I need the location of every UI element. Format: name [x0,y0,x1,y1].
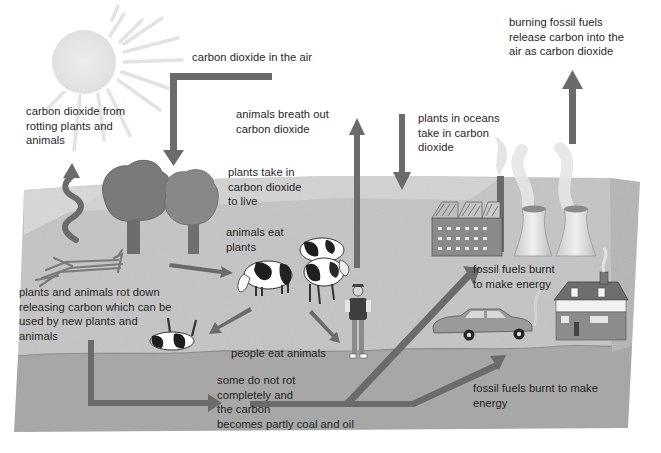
label-animals-eat-plants: animals eat plants [226,225,284,254]
arrow-fossil-release [562,70,583,144]
label-animals-breath-out: animals breath out carbon dioxide [236,107,329,136]
label-fossil-fuels-burnt-lower: fossil fuels burnt to make energy [473,381,598,410]
label-fossil-fuels-burnt-upper: fossil fuels burnt to make energy [473,262,555,291]
label-some-do-not-rot: some do not rot completely and the carbo… [217,373,354,431]
label-burning-fossil-fuels: burning fossil fuels release carbon into… [509,15,624,59]
label-plants-in-oceans: plants in oceans take in carbon dioxide [418,111,500,155]
label-co2-from-rotting: carbon dioxide from rotting plants and a… [26,104,125,148]
label-co2-in-air: carbon dioxide in the air [192,50,312,65]
label-plants-animals-rot: plants and animals rot down releasing ca… [19,285,172,343]
carbon-cycle-diagram: carbon dioxide in the air carbon dioxide… [0,0,661,453]
label-plants-take-in: plants take in carbon dioxide to live [228,165,301,209]
label-people-eat-animals: people eat animals [231,346,326,361]
